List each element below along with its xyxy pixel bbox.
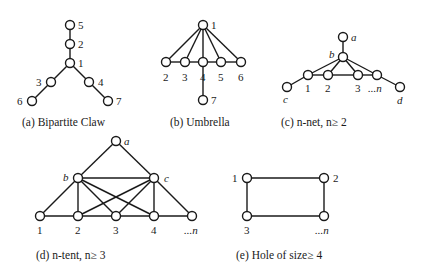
vertex-label: d <box>397 94 403 106</box>
vertex <box>304 71 313 80</box>
subfigure-caption: (b) Umbrella <box>170 116 230 129</box>
vertex-label: 6 <box>238 71 244 83</box>
vertex-label: 4 <box>151 224 157 236</box>
vertex <box>66 40 75 49</box>
subfigure-b: 1234567(b) Umbrella <box>162 19 246 129</box>
subfigure-caption: (d) n-tent, n≥ 3 <box>36 249 106 262</box>
vertex-label: 3 <box>36 76 42 88</box>
edge <box>154 178 192 216</box>
vertex-label: ...n <box>184 224 198 236</box>
vertex <box>373 71 382 80</box>
vertex-label: ...n <box>315 224 329 236</box>
subfigure-e: 123...n(e) Hole of size≥ 4 <box>232 172 339 262</box>
vertex-label: 5 <box>218 71 224 83</box>
vertex <box>85 78 94 87</box>
edge <box>116 178 154 216</box>
vertex-label: b <box>329 48 335 60</box>
vertex-label: 3 <box>355 82 361 94</box>
vertex-label: 3 <box>244 224 250 236</box>
vertex <box>112 212 121 221</box>
vertex-label: 1 <box>305 82 311 94</box>
vertex-label: ...n <box>368 82 382 94</box>
edge <box>166 25 203 62</box>
vertex <box>28 97 37 106</box>
vertex-label: 2 <box>325 82 331 94</box>
vertex <box>74 212 83 221</box>
vertex <box>324 71 333 80</box>
vertex <box>339 33 348 42</box>
vertex <box>150 212 159 221</box>
vertex-label: 1 <box>78 57 84 69</box>
subfigure-c: ab123...ncd(c) n-net, n≥ 2 <box>281 31 405 129</box>
vertex-label: b <box>63 171 69 183</box>
vertex <box>237 58 246 67</box>
edge <box>116 141 154 178</box>
subfigure-d: abc1234...n(d) n-tent, n≥ 3 <box>36 135 199 262</box>
vertex-label: 7 <box>116 95 122 107</box>
vertex <box>339 53 348 62</box>
vertex <box>74 174 83 183</box>
vertex <box>217 58 226 67</box>
vertex-label: 3 <box>182 71 188 83</box>
vertex-label: 2 <box>75 224 81 236</box>
vertex <box>47 78 56 87</box>
subfigure-caption: (c) n-net, n≥ 2 <box>281 116 347 129</box>
vertex <box>243 174 252 183</box>
vertex <box>320 174 329 183</box>
vertex-label: 5 <box>78 19 84 31</box>
vertex <box>66 21 75 30</box>
edge <box>40 178 78 216</box>
vertex <box>199 21 208 30</box>
vertex <box>199 96 208 105</box>
vertex <box>104 97 113 106</box>
vertex <box>112 137 121 146</box>
vertex-label: 4 <box>200 71 206 83</box>
vertex <box>320 212 329 221</box>
edge <box>78 141 116 178</box>
vertex-label: c <box>283 93 288 105</box>
vertex-label: 4 <box>98 76 104 88</box>
vertex <box>199 58 208 67</box>
vertex-label: 7 <box>211 94 217 106</box>
vertex-label: c <box>164 172 169 184</box>
vertex <box>354 71 363 80</box>
subfigure-caption: (a) Bipartite Claw <box>22 116 106 129</box>
edge <box>185 25 203 62</box>
vertex-label: 1 <box>232 172 238 184</box>
edge <box>203 25 241 62</box>
vertex-label: 3 <box>113 224 119 236</box>
subfigure-a: 5213467(a) Bipartite Claw <box>17 19 122 129</box>
vertex-label: 6 <box>17 95 23 107</box>
vertex-label: a <box>351 31 357 43</box>
vertex <box>243 212 252 221</box>
vertex-label: 2 <box>163 71 169 83</box>
vertex <box>181 58 190 67</box>
edge <box>78 178 116 216</box>
vertex <box>188 212 197 221</box>
vertex <box>396 83 405 92</box>
vertex <box>150 174 159 183</box>
vertex-label: a <box>124 135 130 147</box>
graph-figure-canvas: 5213467(a) Bipartite Claw1234567(b) Umbr… <box>0 0 424 271</box>
vertex <box>162 58 171 67</box>
vertex-label: 1 <box>37 224 43 236</box>
subfigure-caption: (e) Hole of size≥ 4 <box>236 249 322 262</box>
vertex <box>66 59 75 68</box>
vertex <box>283 83 292 92</box>
vertex-label: 2 <box>333 172 339 184</box>
vertex-label: 2 <box>78 38 84 50</box>
vertex-label: 1 <box>211 19 217 31</box>
vertex <box>36 212 45 221</box>
